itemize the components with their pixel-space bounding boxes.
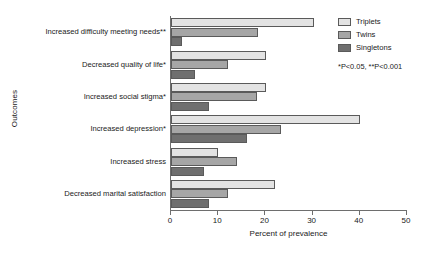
bar-triplets-4 bbox=[171, 148, 218, 157]
category-label: Decreased marital satisfaction bbox=[14, 189, 166, 198]
legend-label: Singletons bbox=[356, 43, 391, 53]
x-tick bbox=[359, 211, 360, 215]
x-tick bbox=[170, 211, 171, 215]
bar-triplets-1 bbox=[171, 51, 266, 60]
bar-twins-5 bbox=[171, 189, 228, 198]
category-label: Decreased quality of life* bbox=[14, 60, 166, 69]
category-label-list: Increased difficulty meeting needs**Decr… bbox=[14, 16, 166, 210]
bar-singletons-3 bbox=[171, 134, 247, 143]
bar-twins-4 bbox=[171, 157, 237, 166]
bar-twins-2 bbox=[171, 92, 257, 101]
bar-twins-1 bbox=[171, 60, 228, 69]
bar-twins-3 bbox=[171, 125, 281, 134]
x-tick-label: 20 bbox=[249, 216, 279, 225]
legend-label: Twins bbox=[356, 30, 375, 40]
legend-swatch-icon bbox=[338, 31, 351, 39]
category-label: Increased difficulty meeting needs** bbox=[14, 27, 166, 36]
legend-item-singletons[interactable]: Singletons bbox=[338, 43, 420, 54]
x-tick bbox=[264, 211, 265, 215]
x-tick-label: 40 bbox=[344, 216, 374, 225]
significance-footnote: *P<0.05, **P<0.001 bbox=[338, 62, 402, 71]
bar-singletons-0 bbox=[171, 37, 182, 46]
legend-swatch-icon bbox=[338, 44, 351, 52]
x-axis-line bbox=[170, 210, 407, 211]
bar-singletons-5 bbox=[171, 199, 209, 208]
x-axis-title: Percent of prevalence bbox=[170, 229, 407, 238]
x-tick bbox=[217, 211, 218, 215]
legend: TripletsTwinsSingletons bbox=[338, 17, 420, 56]
bar-twins-0 bbox=[171, 28, 258, 37]
category-label: Increased stress bbox=[14, 157, 166, 166]
x-tick-label: 0 bbox=[155, 216, 185, 225]
bar-singletons-4 bbox=[171, 167, 204, 176]
bar-chart: Outcomes Increased difficulty meeting ne… bbox=[0, 0, 421, 261]
category-label: Increased depression* bbox=[14, 124, 166, 133]
x-tick-label: 10 bbox=[202, 216, 232, 225]
bar-triplets-2 bbox=[171, 83, 266, 92]
legend-label: Triplets bbox=[356, 17, 381, 27]
x-tick-label: 30 bbox=[297, 216, 327, 225]
x-tick bbox=[406, 211, 407, 215]
x-tick bbox=[312, 211, 313, 215]
legend-item-twins[interactable]: Twins bbox=[338, 30, 420, 41]
bar-singletons-1 bbox=[171, 70, 195, 79]
bar-triplets-5 bbox=[171, 180, 275, 189]
bar-triplets-3 bbox=[171, 115, 360, 124]
category-label: Increased social stigma* bbox=[14, 92, 166, 101]
x-tick-label: 50 bbox=[391, 216, 421, 225]
legend-swatch-icon bbox=[338, 18, 351, 26]
bar-singletons-2 bbox=[171, 102, 209, 111]
bar-triplets-0 bbox=[171, 18, 314, 27]
legend-item-triplets[interactable]: Triplets bbox=[338, 17, 420, 28]
